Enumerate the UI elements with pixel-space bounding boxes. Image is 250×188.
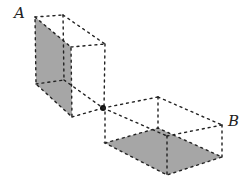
diagram: A B <box>0 0 250 188</box>
cube-a-shaded-face <box>35 17 72 117</box>
label-a: A <box>14 4 25 22</box>
cube-b <box>103 97 222 175</box>
cube-diagram <box>0 0 250 188</box>
label-b: B <box>228 112 239 130</box>
cube-a <box>35 15 105 117</box>
